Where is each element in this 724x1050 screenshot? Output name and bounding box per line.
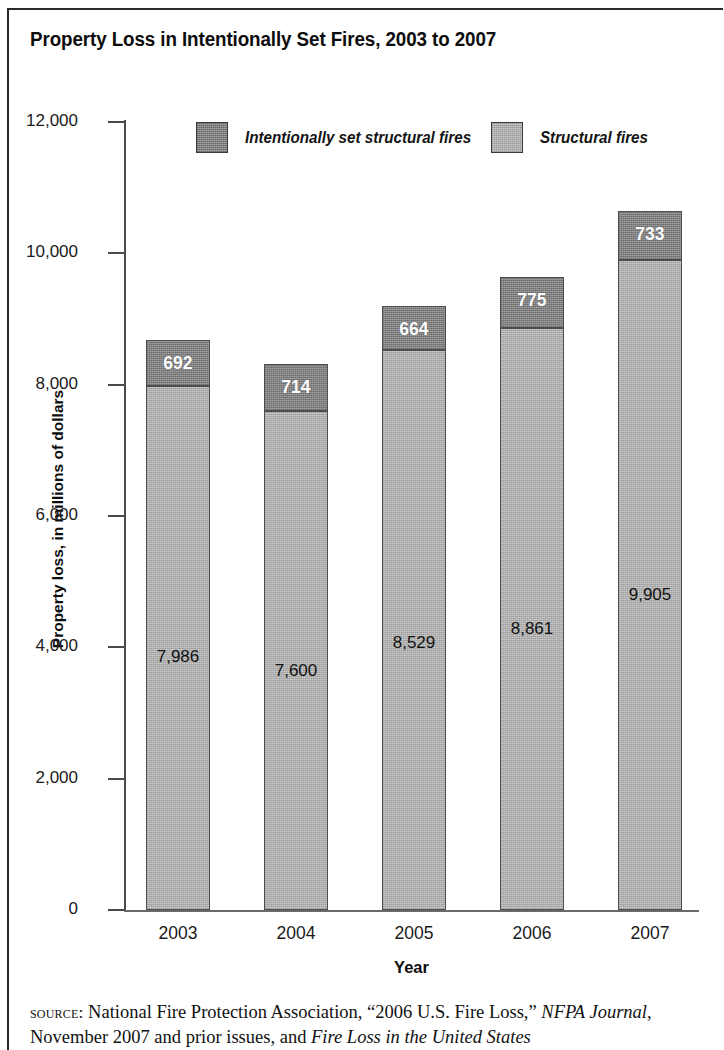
x-tick-label-2006: 2006 xyxy=(477,923,587,944)
chart-plot-area: Property loss, in millions of dollars 12… xyxy=(0,0,724,1050)
y-tick-label: 6,000 xyxy=(35,505,78,525)
bar-group-2007[interactable]: 733 xyxy=(618,211,682,910)
source-italic-2: Fire Loss in the United States xyxy=(311,1027,531,1047)
y-tick-label: 12,000 xyxy=(26,111,78,131)
y-tick-mark xyxy=(108,515,124,517)
y-axis-line xyxy=(124,120,126,912)
y-tick-mark xyxy=(108,778,124,780)
bar-segment-structural-2005[interactable] xyxy=(382,350,446,910)
source-label: source: xyxy=(30,1003,83,1022)
bar-group-2005[interactable]: 664 xyxy=(382,306,446,910)
bar-group-2004[interactable]: 714 xyxy=(264,364,328,910)
y-tick-mark xyxy=(108,646,124,648)
x-tick-label-2004: 2004 xyxy=(241,923,351,944)
bar-segment-intentional-2004[interactable]: 714 xyxy=(264,364,328,411)
y-tick-label: 0 xyxy=(69,899,78,919)
bar-value-structural-2005: 8,529 xyxy=(382,634,446,651)
y-tick-mark xyxy=(108,121,124,123)
bar-value-intentional-2006: 775 xyxy=(517,290,546,327)
bar-group-2006[interactable]: 775 xyxy=(500,277,564,910)
source-text-1: National Fire Protection Association, “2… xyxy=(83,1002,541,1022)
bar-value-intentional-2004: 714 xyxy=(281,377,310,410)
bar-value-intentional-2007: 733 xyxy=(635,224,664,258)
bar-group-2003[interactable]: 692 xyxy=(146,340,210,910)
source-note: source: National Fire Protection Associa… xyxy=(30,1000,698,1050)
source-italic-1: NFPA Journal xyxy=(541,1002,647,1022)
bar-value-intentional-2005: 664 xyxy=(399,319,428,349)
bar-value-structural-2007: 9,905 xyxy=(618,586,682,603)
bar-value-structural-2006: 8,861 xyxy=(500,620,564,637)
bar-value-structural-2004: 7,600 xyxy=(264,662,328,679)
bar-value-intentional-2003: 692 xyxy=(163,353,192,384)
y-tick-label: 10,000 xyxy=(26,242,78,262)
y-tick-mark xyxy=(108,252,124,254)
x-tick-label-2003: 2003 xyxy=(123,923,233,944)
y-tick-label: 2,000 xyxy=(35,768,78,788)
x-axis-line xyxy=(124,910,699,912)
bar-segment-intentional-2007[interactable]: 733 xyxy=(618,211,682,259)
bar-value-structural-2003: 7,986 xyxy=(146,648,210,665)
x-axis-title: Year xyxy=(124,958,699,977)
bar-segment-intentional-2006[interactable]: 775 xyxy=(500,277,564,328)
y-tick-mark xyxy=(108,384,124,386)
bar-segment-intentional-2005[interactable]: 664 xyxy=(382,306,446,350)
x-tick-label-2007: 2007 xyxy=(595,923,705,944)
bar-segment-intentional-2003[interactable]: 692 xyxy=(146,340,210,385)
y-tick-label: 4,000 xyxy=(35,636,78,656)
y-tick-label: 8,000 xyxy=(35,374,78,394)
x-tick-label-2005: 2005 xyxy=(359,923,469,944)
y-tick-mark xyxy=(108,909,124,911)
